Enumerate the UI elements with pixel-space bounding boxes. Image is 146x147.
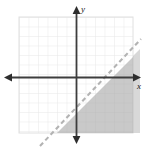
shaded-region-outside-grid — [133, 49, 140, 133]
x-axis-label: x — [136, 81, 141, 91]
coordinate-plane-svg: y x — [0, 0, 146, 147]
graph-figure: y x — [0, 0, 146, 147]
y-axis-label: y — [80, 4, 85, 14]
